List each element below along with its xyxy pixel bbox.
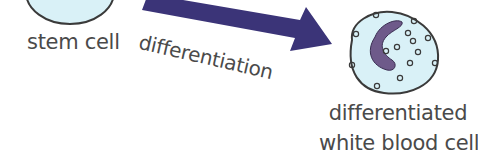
white-blood-cell-label-line-2: white blood cell bbox=[319, 128, 477, 158]
white-blood-cell-shape bbox=[349, 12, 438, 94]
stem-cell-shape bbox=[26, 0, 114, 24]
white-blood-cell-label: differentiated white blood cell bbox=[319, 98, 477, 158]
stem-cell-label: stem cell bbox=[27, 30, 120, 54]
white-blood-cell-label-line-1: differentiated bbox=[319, 98, 477, 128]
